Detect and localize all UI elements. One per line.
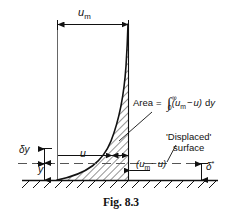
integrand-close-paren: ) xyxy=(199,97,202,108)
figure-container: um Area=∫∞0(um−u)dy δy u y 'Displaced'su… xyxy=(0,0,242,218)
area-word: Area xyxy=(133,97,153,108)
differential-variable: y xyxy=(210,97,215,108)
integral-upper-limit: ∞ xyxy=(172,96,177,101)
um-dimension-line xyxy=(58,20,129,30)
area-integral-label: Area=∫∞0(um−u)dy xyxy=(133,98,215,110)
integrand-minus: − xyxy=(187,97,193,108)
u-max-subscript: m xyxy=(84,12,91,21)
delta-star-asterisk: * xyxy=(212,159,215,168)
equals-sign: = xyxy=(156,97,162,108)
wall-hatching xyxy=(22,181,216,188)
u-label: u xyxy=(80,148,86,160)
displaced-surface-line1: 'Displaced' xyxy=(166,131,211,142)
integrand-um-subscript: m xyxy=(180,103,186,110)
delta-star-label: δ* xyxy=(206,160,214,172)
um-minus-u-label: (um−u) xyxy=(136,159,166,171)
delta-y-dimension xyxy=(37,149,52,164)
umu-minus: − xyxy=(151,158,157,169)
umu-subscript: m xyxy=(144,164,150,171)
delta-y-label: δy xyxy=(19,144,30,155)
y-label: y xyxy=(38,164,43,176)
integral-lower-limit: 0 xyxy=(168,106,172,111)
velocity-deficit-hatched-area xyxy=(56,22,130,182)
umu-close-paren: ) xyxy=(163,158,166,169)
displaced-surface-label: 'Displaced'surface xyxy=(166,132,211,154)
u-max-label: um xyxy=(78,6,91,22)
figure-caption: Fig. 8.3 xyxy=(0,196,242,208)
displaced-surface-line2: surface xyxy=(173,142,204,153)
integral-sign: ∫∞0 xyxy=(167,98,171,109)
